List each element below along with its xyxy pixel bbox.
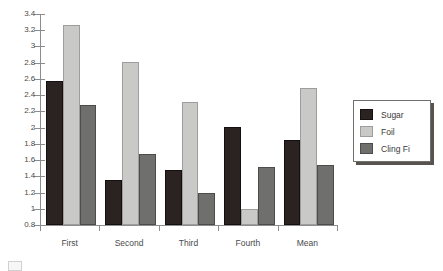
- bar-cling-fi-second: [139, 154, 156, 225]
- legend: Sugar Foil Cling Fi: [353, 100, 431, 162]
- x-axis-tick: [337, 225, 338, 231]
- bar-foil-fourth: [241, 209, 258, 225]
- y-axis-label: 3.2: [24, 26, 35, 34]
- y-axis-label: 1.2: [24, 189, 35, 197]
- x-axis-tick: [159, 225, 160, 231]
- x-axis-tick: [278, 225, 279, 231]
- x-axis-line: [40, 225, 338, 226]
- bar-cling-fi-mean: [317, 165, 334, 225]
- legend-label-cling-film: Cling Fi: [381, 144, 410, 154]
- y-axis-label: 3.4: [24, 10, 35, 18]
- caption-glyph-icon: [8, 261, 22, 271]
- bars-layer: [41, 14, 338, 225]
- plot-area: 0.811.21.41.61.822.22.42.62.833.23.4 Fir…: [40, 14, 338, 225]
- bar-cling-fi-fourth: [258, 167, 275, 225]
- bar-sugar-first: [46, 81, 63, 225]
- legend-label-foil: Foil: [381, 127, 395, 137]
- y-axis-label: 2.4: [24, 91, 35, 99]
- x-axis-label-third: Third: [179, 238, 198, 248]
- legend-label-sugar: Sugar: [381, 110, 404, 120]
- y-axis-label: 3: [31, 42, 35, 50]
- bar-sugar-third: [165, 170, 182, 225]
- x-axis-label-second: Second: [115, 238, 144, 248]
- y-axis-label: 1.8: [24, 140, 35, 148]
- legend-swatch-foil: [360, 126, 373, 137]
- bar-cling-fi-third: [198, 193, 215, 225]
- y-axis-label: 2.2: [24, 107, 35, 115]
- legend-swatch-cling-film: [360, 143, 373, 154]
- y-axis-label: 2.8: [24, 59, 35, 67]
- bar-foil-second: [122, 62, 139, 225]
- x-axis-label-first: First: [61, 238, 78, 248]
- y-axis-label: 2: [31, 124, 35, 132]
- y-axis-label: 2.6: [24, 75, 35, 83]
- bar-sugar-second: [105, 180, 122, 225]
- x-axis-tick: [218, 225, 219, 231]
- legend-item: Foil: [360, 123, 425, 140]
- x-axis-tick: [40, 225, 41, 231]
- x-axis-label-mean: Mean: [297, 238, 318, 248]
- y-axis-label: 0.8: [24, 221, 35, 229]
- y-axis-label: 1: [31, 205, 35, 213]
- bar-foil-mean: [300, 88, 317, 225]
- legend-item: Sugar: [360, 106, 425, 123]
- bar-cling-fi-first: [80, 105, 97, 225]
- bar-sugar-fourth: [224, 127, 241, 225]
- y-axis-label: 1.4: [24, 172, 35, 180]
- bar-foil-first: [63, 25, 80, 225]
- bar-foil-third: [182, 102, 199, 225]
- bar-sugar-mean: [284, 140, 301, 225]
- y-axis-label: 1.6: [24, 156, 35, 164]
- legend-item: Cling Fi: [360, 140, 425, 157]
- x-axis-label-fourth: Fourth: [236, 238, 261, 248]
- caption-sliver: [8, 261, 28, 271]
- legend-swatch-sugar: [360, 109, 373, 120]
- x-axis-tick: [99, 225, 100, 231]
